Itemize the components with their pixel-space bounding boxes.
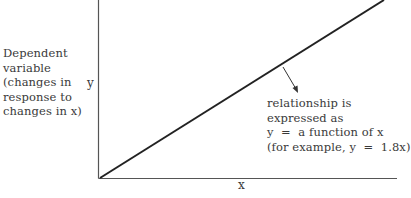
y-axis-label: y xyxy=(87,76,94,90)
annotation-line: (for example, y = 1.8x) xyxy=(267,140,411,155)
annotation-arrow-icon xyxy=(283,67,298,93)
x-axis-label: x xyxy=(238,178,245,192)
dependent-variable-line: (changes in xyxy=(3,75,82,90)
dependent-variable-line: changes in x) xyxy=(3,104,82,119)
annotation-line: expressed as xyxy=(267,111,411,126)
relationship-annotation: relationship is expressed as y = a funct… xyxy=(267,96,411,154)
dependent-variable-line: Dependent xyxy=(3,46,82,61)
dependent-variable-description: Dependent variable (changes in response … xyxy=(3,46,82,119)
dependent-variable-line: response to xyxy=(3,90,82,105)
annotation-line: relationship is xyxy=(267,96,411,111)
dependent-variable-line: variable xyxy=(3,61,82,76)
annotation-line: y = a function of x xyxy=(267,125,411,140)
